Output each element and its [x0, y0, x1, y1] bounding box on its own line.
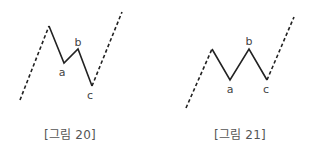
figure-21-point-c-label: c [263, 83, 269, 96]
figure-20: a b c [20, 12, 122, 102]
figure-20-abc-correction-path [49, 26, 92, 86]
figure-21-caption: [그림 21] [214, 125, 266, 142]
figure-21-lead-out-dashed [267, 17, 294, 80]
figure-20-lead-out-dashed [92, 12, 122, 86]
figure-20-point-c-label: c [87, 89, 93, 102]
figure-20-lead-in-dashed [20, 26, 49, 100]
figure-21-abc-correction-path [212, 49, 267, 80]
figure-20-point-b-label: b [75, 36, 82, 49]
figure-20-point-a-label: a [59, 66, 66, 79]
figure-20-caption: [그림 20] [44, 125, 96, 142]
figure-21-point-a-label: a [227, 83, 234, 96]
figure-21: a b c [186, 17, 294, 108]
figure-21-lead-in-dashed [186, 49, 212, 108]
figure-21-point-b-label: b [246, 35, 253, 48]
